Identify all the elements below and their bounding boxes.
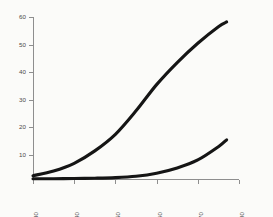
y-tick-label: 50	[19, 41, 26, 48]
y-tick-label: 20	[19, 123, 26, 130]
y-tick-label: 40	[19, 68, 26, 75]
x-tick-label: 1940	[73, 211, 80, 217]
line-chart: 102030405060 193019401950196019701980	[0, 0, 273, 217]
x-tick-label: 1930	[32, 211, 39, 217]
y-tick-label: 10	[19, 151, 26, 158]
y-tick-label: 30	[19, 96, 26, 103]
x-tick-label: 1980	[238, 211, 245, 217]
y-tick-label: 60	[19, 13, 26, 20]
chart-screenshot: 102030405060 193019401950196019701980	[0, 0, 273, 217]
x-tick-label: 1950	[114, 211, 121, 217]
x-tick-label: 1970	[197, 211, 204, 217]
x-tick-label: 1960	[156, 211, 163, 217]
